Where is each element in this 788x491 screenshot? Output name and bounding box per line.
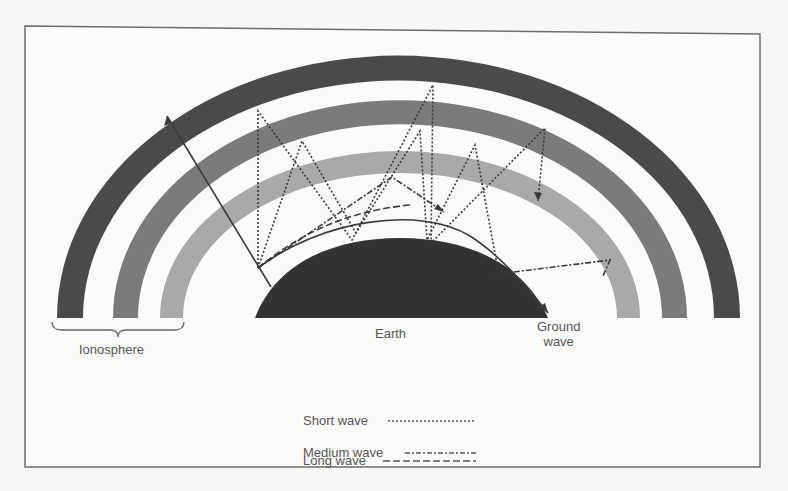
legend-short-wave-label: Short wave bbox=[303, 413, 368, 428]
legend-long-wave-label: Long wave bbox=[303, 453, 366, 468]
ground-wave-label: Ground wave bbox=[537, 319, 580, 349]
ground-wave-label-line2: wave bbox=[537, 334, 580, 349]
diagram-canvas bbox=[0, 0, 788, 491]
legend-long-wave: Long wave bbox=[303, 453, 366, 468]
earth-label: Earth bbox=[375, 326, 406, 341]
legend-short-wave: Short wave bbox=[303, 413, 368, 428]
ionosphere-label: Ionosphere bbox=[79, 342, 144, 357]
ground-wave-label-line1: Ground bbox=[537, 319, 580, 334]
